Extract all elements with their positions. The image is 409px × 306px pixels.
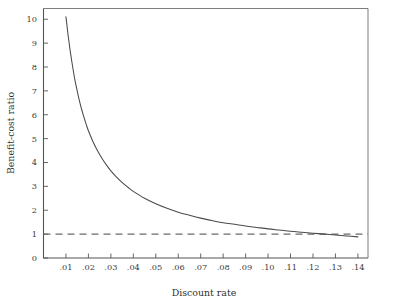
- figure-background: [0, 0, 409, 306]
- x-axis-tick-label: .05: [149, 262, 162, 272]
- chart-figure: 012345678910 .01.02.03.04.05.06.07.08.09…: [0, 0, 409, 306]
- x-axis-tick-label: .06: [172, 262, 185, 272]
- x-axis-tick-label: .11: [284, 262, 297, 272]
- y-axis-title: Benefit-cost ratio: [5, 92, 16, 175]
- benefit-cost-ratio-chart: 012345678910 .01.02.03.04.05.06.07.08.09…: [0, 0, 409, 306]
- y-axis-tick-label: 1: [32, 229, 37, 239]
- x-axis-tick-label: .03: [104, 262, 117, 272]
- x-axis-tick-label: .14: [351, 262, 364, 272]
- x-axis-tick-label: .08: [217, 262, 230, 272]
- y-axis-tick-label: 6: [32, 110, 37, 120]
- x-axis-tick-label: .10: [262, 262, 275, 272]
- y-axis-tick-label: 2: [32, 205, 37, 215]
- x-axis-tick-label: .13: [329, 262, 342, 272]
- y-axis-tick-label: 4: [32, 157, 37, 167]
- x-axis-tick-label: .01: [59, 262, 72, 272]
- y-axis-tick-label: 0: [32, 253, 37, 263]
- x-axis-tick-label: .09: [239, 262, 252, 272]
- y-axis-tick-label: 3: [32, 181, 37, 191]
- y-axis-tick-label: 5: [32, 134, 37, 144]
- x-axis-tick-label: .12: [306, 262, 319, 272]
- x-axis-tick-label: .04: [127, 262, 140, 272]
- y-axis-tick-label: 8: [32, 62, 37, 72]
- y-axis-tick-label: 9: [32, 38, 37, 48]
- y-axis-tick-label: 7: [32, 86, 37, 96]
- x-axis-tick-label: .02: [82, 262, 95, 272]
- x-axis-tick-label: .07: [194, 262, 207, 272]
- y-axis-tick-label: 10: [27, 14, 37, 24]
- x-axis-title: Discount rate: [172, 287, 237, 298]
